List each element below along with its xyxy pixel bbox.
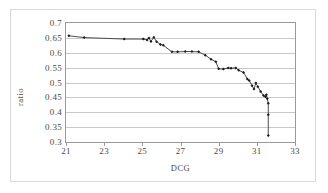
plot-area [65, 22, 296, 143]
series-line [69, 36, 268, 136]
data-point-marker [214, 60, 217, 63]
x-tick-mark [181, 142, 182, 146]
x-tick-label: 21 [61, 146, 71, 156]
data-point-marker [184, 50, 187, 53]
x-tick-label: 29 [214, 146, 224, 156]
x-tick-label: 27 [176, 146, 186, 156]
y-tick-label: 0.6 [50, 48, 62, 58]
x-axis-tick-labels: 21232527293133 [65, 146, 296, 160]
y-tick-label: 0.7 [50, 18, 62, 28]
data-point-marker [197, 50, 200, 53]
y-tick-label: 0.4 [50, 107, 62, 117]
x-tick-mark [295, 142, 296, 146]
data-point-marker [222, 68, 225, 71]
x-tick-mark [66, 142, 67, 146]
data-point-marker [217, 67, 220, 70]
y-tick-label: 0.3 [50, 137, 62, 147]
x-tick-label: 23 [99, 146, 109, 156]
data-point-marker [176, 50, 179, 53]
x-tick-label: 31 [252, 146, 262, 156]
data-point-marker [67, 34, 70, 37]
x-tick-mark [142, 142, 143, 146]
data-point-marker [123, 38, 126, 41]
x-tick-mark [257, 142, 258, 146]
x-axis-title: DCG [65, 163, 296, 173]
y-tick-label: 0.55 [45, 63, 62, 73]
data-point-marker [227, 66, 230, 69]
y-tick-label: 0.45 [45, 92, 62, 102]
y-tick-label: 0.35 [45, 122, 62, 132]
data-point-marker [266, 97, 269, 100]
x-tick-label: 33 [290, 146, 300, 156]
y-axis-tick-labels: 0.30.350.40.450.50.550.60.650.7 [29, 22, 62, 143]
chart-figure: 0.30.350.40.450.50.550.60.650.7 ratio 21… [0, 0, 328, 193]
data-point-marker [190, 50, 193, 53]
x-tick-label: 25 [138, 146, 148, 156]
y-tick-label: 0.5 [50, 78, 62, 88]
data-point-marker [142, 38, 145, 41]
y-tick-label: 0.65 [45, 33, 62, 43]
x-tick-mark [104, 142, 105, 146]
data-point-marker [267, 102, 270, 105]
x-tick-mark [219, 142, 220, 146]
y-axis-title: ratio [15, 87, 25, 105]
data-point-marker [267, 113, 270, 116]
data-point-marker [83, 36, 86, 39]
line-series-ratio [66, 23, 295, 142]
data-point-marker [230, 67, 233, 70]
data-point-marker [267, 134, 270, 137]
